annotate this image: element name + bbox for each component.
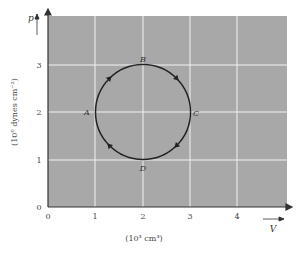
x-tick-2: 2 [140, 212, 145, 221]
y-axis-arrow-icon [45, 9, 51, 15]
point-label-d: D [139, 164, 147, 173]
x-axis-name: V [270, 224, 278, 234]
y-tick-3: 3 [36, 61, 41, 70]
pv-diagram: A B C D 0 1 2 3 4 0 1 2 3 p (10⁶ dynes c… [0, 0, 297, 253]
x-axis-arrow-icon [286, 204, 292, 210]
y-axis-name: p [28, 13, 34, 23]
y-axis-unit: (10⁶ dynes cm⁻²) [10, 78, 19, 146]
point-label-a: A [83, 108, 90, 117]
y-label-arrow-icon [35, 14, 39, 35]
x-label-arrow-icon [263, 217, 284, 221]
y-tick-0: 0 [36, 203, 41, 212]
x-tick-0: 0 [45, 212, 50, 221]
x-tick-1: 1 [92, 212, 97, 221]
y-tick-1: 1 [36, 156, 41, 165]
y-tick-2: 2 [36, 108, 41, 117]
point-label-c: C [193, 109, 199, 118]
x-tick-4: 4 [234, 212, 239, 221]
x-axis-unit: (10³ cm³) [125, 234, 162, 243]
x-tick-3: 3 [187, 212, 192, 221]
point-label-b: B [139, 55, 146, 64]
